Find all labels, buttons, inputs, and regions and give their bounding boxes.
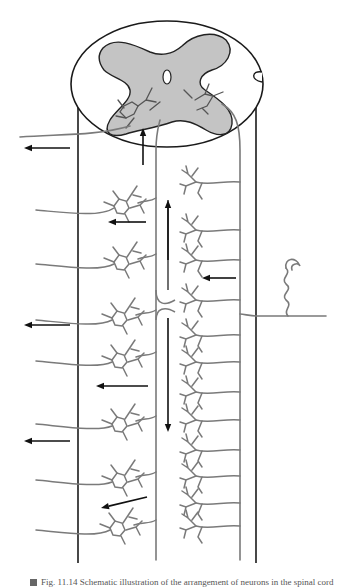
interneuron-dendrite	[180, 284, 240, 317]
motor-neuron	[36, 508, 156, 544]
interneuron-dendrite	[180, 346, 240, 379]
arrow-descending	[165, 318, 171, 432]
central-canal	[163, 70, 171, 84]
interneuron-dendrite	[180, 510, 240, 543]
right-interneuron-pool	[180, 166, 240, 543]
arrow-input	[202, 275, 236, 281]
arrow-internal-1	[108, 219, 146, 225]
interneuron-dendrite	[180, 460, 240, 493]
interneuron-dendrite	[180, 404, 240, 437]
commissure-bridge	[156, 290, 175, 320]
arrow-output-1	[24, 145, 70, 151]
interneuron-dendrite	[180, 319, 240, 352]
interneuron-dendrite	[180, 166, 240, 199]
caption-marker	[30, 579, 37, 586]
interneuron-dendrite	[180, 214, 240, 247]
caption-text: Fig. 11.14 Schematic illustration of the…	[41, 577, 334, 587]
figure-caption: Fig. 11.14 Schematic illustration of the…	[30, 577, 334, 587]
sensory-receptor	[240, 259, 326, 316]
arrow-output-3	[24, 438, 70, 444]
motor-neuron	[36, 186, 156, 222]
motor-neuron	[36, 242, 156, 278]
arrow-ascending-long	[165, 200, 171, 260]
motor-neuron	[36, 340, 156, 376]
interneuron-dendrite	[180, 487, 240, 520]
left-motor-neuron-pool	[36, 186, 156, 544]
motor-neuron	[36, 404, 156, 440]
interneuron-dendrite	[180, 244, 240, 277]
motor-neuron	[36, 460, 156, 496]
arrow-internal-3	[101, 497, 147, 509]
interneuron-dendrite	[180, 376, 240, 409]
motor-neuron	[36, 298, 156, 334]
arrow-internal-2	[96, 383, 148, 389]
interneuron-dendrite	[180, 434, 240, 467]
